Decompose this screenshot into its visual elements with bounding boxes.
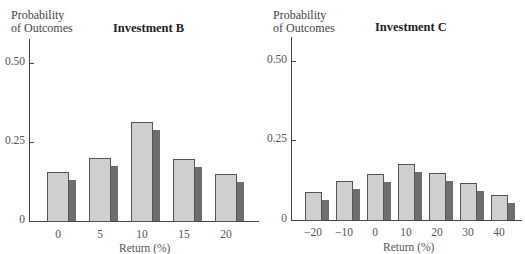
x-tick-label: 40 (484, 226, 514, 238)
bar-return-20 (429, 173, 446, 221)
x-tick-label: 0 (43, 228, 73, 240)
x-tick-label: 10 (127, 228, 157, 240)
bar-return-30 (460, 183, 477, 221)
y-axis-label-line2: of Outcomes (11, 22, 73, 35)
bar-shadow (152, 130, 160, 221)
bar-shadow (110, 166, 118, 221)
y-tick (29, 142, 34, 143)
y-tick-label: 0 (257, 212, 287, 224)
bar-return-20 (215, 174, 237, 222)
bar-shadow (414, 172, 422, 220)
y-tick-label: 0.25 (257, 132, 287, 144)
y-tick-label: 0.50 (0, 55, 25, 67)
bar-shadow (383, 182, 391, 220)
bar-return-0 (47, 172, 69, 222)
x-tick-label: 20 (211, 228, 241, 240)
y-axis (291, 37, 292, 221)
bar-return-10 (398, 164, 415, 221)
x-tick-label: 30 (453, 226, 483, 238)
chart-title: Investment B (113, 21, 184, 36)
x-tick-label: −20 (298, 226, 328, 238)
bar-shadow (507, 203, 515, 220)
y-tick-label: 0 (0, 213, 25, 225)
y-tick-label: 0.25 (0, 134, 25, 146)
bar-shadow (194, 167, 202, 221)
chart-investment-b: Probability of Outcomes Investment B 0.5… (0, 0, 262, 253)
bar-shadow (68, 180, 76, 221)
y-axis-label-line2: of Outcomes (273, 22, 335, 35)
chart-title: Investment C (375, 20, 447, 35)
x-tick-label: 5 (85, 228, 115, 240)
bar-shadow (352, 189, 360, 220)
x-axis-label: Return (%) (383, 241, 434, 253)
chart-investment-c: Probability of Outcomes Investment C 0.5… (262, 0, 525, 253)
y-tick-label: 0.50 (257, 53, 287, 65)
bar-return-15 (173, 159, 195, 222)
bar-return-10 (131, 122, 153, 222)
bar-return-minus20 (305, 192, 322, 221)
y-tick (291, 61, 296, 62)
y-tick (291, 140, 296, 141)
y-axis (29, 39, 30, 222)
x-tick-label: 15 (169, 228, 199, 240)
x-tick-label: −10 (329, 226, 359, 238)
y-axis-label: Probability of Outcomes (273, 9, 335, 35)
bar-return-0 (367, 174, 384, 221)
bar-return-40 (491, 195, 508, 221)
bar-shadow (445, 181, 453, 220)
bar-shadow (321, 200, 329, 220)
x-tick-label: 0 (360, 226, 390, 238)
bar-return-5 (89, 158, 111, 222)
x-axis-label: Return (%) (119, 242, 170, 254)
bar-shadow (236, 182, 244, 221)
bar-return-minus10 (336, 181, 353, 221)
y-axis-label: Probability of Outcomes (11, 9, 73, 35)
y-tick (29, 63, 34, 64)
bar-shadow (476, 191, 484, 220)
x-tick-label: 10 (391, 226, 421, 238)
x-tick-label: 20 (422, 226, 452, 238)
